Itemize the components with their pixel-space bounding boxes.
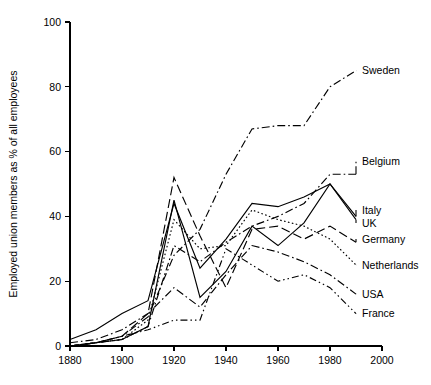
y-tick-label: 80 — [49, 81, 61, 93]
tick-label-layer: 0204060801001880190019201940196019802000 — [43, 16, 393, 366]
union-density-chart: 0204060801001880190019201940196019802000… — [0, 0, 431, 385]
x-tick-label: 1880 — [58, 354, 82, 366]
y-tick-label: 0 — [55, 340, 61, 352]
axis-lines — [70, 22, 382, 346]
series-line-usa — [70, 246, 356, 343]
chart-canvas: 0204060801001880190019201940196019802000… — [0, 0, 431, 385]
series-label-uk: UK — [362, 217, 377, 229]
series-label-italy: Italy — [362, 204, 382, 216]
y-tick-label: 60 — [49, 145, 61, 157]
series-line-france — [70, 249, 356, 346]
series-line-netherlands — [70, 210, 356, 346]
series-label-layer: SwedenBelgiumItalyUKGermanyNetherlandsUS… — [362, 64, 419, 319]
x-tick-label: 2000 — [370, 354, 394, 366]
x-tick-label: 1980 — [318, 354, 342, 366]
series-line-italy — [70, 184, 356, 346]
x-tick-label: 1940 — [214, 354, 238, 366]
y-tick-label: 100 — [43, 16, 61, 28]
series-label-belgium: Belgium — [362, 155, 400, 167]
y-tick-label: 20 — [49, 275, 61, 287]
y-axis-title: Employed union members as % of all emplo… — [7, 70, 19, 297]
y-tick-label: 40 — [49, 210, 61, 222]
x-tick-label: 1920 — [162, 354, 186, 366]
axis-layer — [65, 22, 382, 351]
series-label-netherlands: Netherlands — [362, 259, 419, 271]
series-layer — [70, 71, 356, 346]
series-label-germany: Germany — [362, 233, 406, 245]
series-label-france: France — [362, 307, 395, 319]
series-label-sweden: Sweden — [362, 64, 400, 76]
x-tick-label: 1960 — [266, 354, 290, 366]
series-line-belgium — [70, 174, 356, 346]
x-tick-label: 1900 — [110, 354, 134, 366]
series-label-usa: USA — [362, 288, 384, 300]
